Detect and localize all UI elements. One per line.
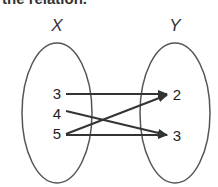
- domain-element: 4: [53, 105, 61, 122]
- range-element: 2: [173, 86, 181, 103]
- domain-element: 3: [53, 85, 61, 102]
- domain-element: 5: [53, 125, 61, 142]
- range-element: 3: [173, 127, 181, 144]
- range-ellipse: [140, 43, 210, 183]
- mapping-diagram: X Y 3 4 5 2 3: [0, 0, 218, 187]
- domain-set-label: X: [50, 16, 63, 35]
- range-set-label: Y: [169, 16, 182, 35]
